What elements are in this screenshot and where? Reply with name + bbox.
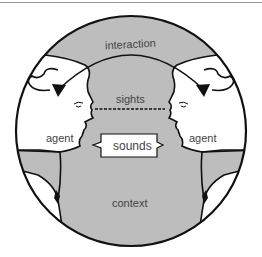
sounds-label: sounds (113, 139, 152, 153)
right-agent-label: agent (189, 132, 217, 144)
sights-label: sights (116, 93, 145, 105)
left-agent-label: agent (46, 132, 74, 144)
context-label: context (112, 197, 147, 209)
